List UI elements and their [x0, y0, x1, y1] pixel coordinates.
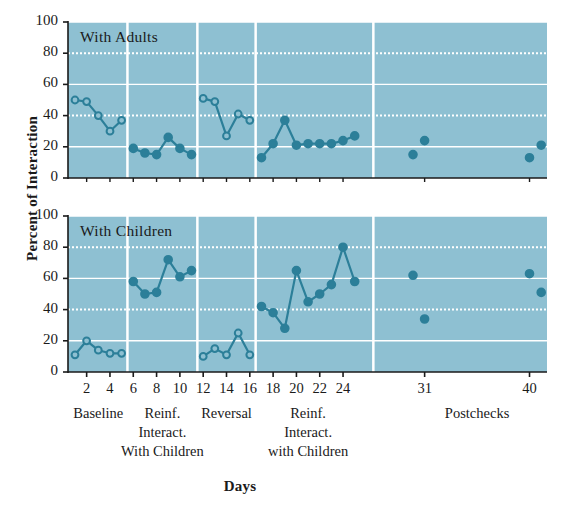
data-point-filled	[188, 151, 196, 159]
data-point-filled	[421, 315, 429, 323]
phase-label-3: Reinf.Interact.with Children	[233, 404, 383, 461]
data-point-filled	[328, 281, 336, 289]
y-tick-label: 40	[18, 300, 58, 317]
data-point-open	[95, 112, 102, 119]
data-point-filled	[188, 267, 196, 275]
data-point-filled	[409, 151, 417, 159]
data-point-filled	[339, 243, 347, 251]
x-axis-title: Days	[0, 478, 480, 495]
y-tick-label: 20	[18, 137, 58, 154]
phase-label-line: with Children	[233, 442, 383, 461]
data-point-filled	[258, 303, 266, 311]
data-point-filled	[316, 290, 324, 298]
data-point-open	[107, 350, 114, 357]
data-point-open	[83, 98, 90, 105]
data-point-filled	[141, 290, 149, 298]
data-point-filled	[269, 140, 277, 148]
data-point-filled	[281, 117, 289, 125]
data-point-filled	[537, 289, 545, 297]
y-tick-label: 100	[18, 206, 58, 223]
data-point-open	[246, 351, 253, 358]
data-point-filled	[269, 309, 277, 317]
data-point-filled	[164, 134, 172, 142]
data-point-open	[200, 353, 207, 360]
data-point-filled	[130, 145, 138, 153]
y-tick-label: 60	[18, 268, 58, 285]
data-point-filled	[537, 141, 545, 149]
phase-label-line: Reinf.	[233, 404, 383, 423]
phase-label-4: Postchecks	[402, 404, 552, 423]
x-tick-label: 24	[323, 380, 363, 397]
phase-label-line: Interact.	[87, 423, 237, 442]
panel-title-with-adults: With Adults	[80, 28, 158, 46]
y-tick-label: 80	[18, 237, 58, 254]
data-point-filled	[339, 137, 347, 145]
data-point-filled	[293, 267, 301, 275]
data-point-open	[223, 133, 230, 140]
data-point-open	[95, 347, 102, 354]
data-point-open	[235, 111, 242, 118]
data-point-open	[107, 128, 114, 135]
data-point-filled	[153, 289, 161, 297]
data-point-open	[118, 117, 125, 124]
data-point-open	[118, 350, 125, 357]
data-point-filled	[316, 140, 324, 148]
data-point-open	[200, 95, 207, 102]
data-point-filled	[409, 272, 417, 280]
data-point-filled	[176, 273, 184, 281]
y-tick-label: 20	[18, 331, 58, 348]
phase-label-line: Interact.	[233, 423, 383, 442]
data-point-filled	[421, 137, 429, 145]
data-point-filled	[304, 298, 312, 306]
data-point-filled	[328, 140, 336, 148]
data-point-filled	[351, 132, 359, 140]
data-point-filled	[351, 278, 359, 286]
x-tick-label: 40	[510, 380, 550, 397]
data-point-open	[211, 98, 218, 105]
data-point-filled	[141, 149, 149, 157]
data-point-filled	[526, 154, 534, 162]
data-point-filled	[153, 151, 161, 159]
phase-label-line: Postchecks	[402, 404, 552, 423]
x-tick-label: 31	[405, 380, 445, 397]
data-point-filled	[130, 278, 138, 286]
y-tick-label: 0	[18, 362, 58, 379]
data-point-open	[211, 345, 218, 352]
data-point-filled	[176, 145, 184, 153]
phase-label-line: With Children	[87, 442, 237, 461]
data-point-open	[72, 97, 79, 104]
data-point-open	[83, 337, 90, 344]
data-point-filled	[164, 256, 172, 264]
data-point-open	[72, 351, 79, 358]
data-point-filled	[258, 154, 266, 162]
y-tick-label: 40	[18, 106, 58, 123]
y-tick-label: 0	[18, 168, 58, 185]
data-point-filled	[304, 140, 312, 148]
data-point-filled	[281, 325, 289, 333]
data-point-filled	[526, 270, 534, 278]
y-tick-label: 100	[18, 12, 58, 29]
data-point-filled	[293, 141, 301, 149]
data-point-open	[246, 117, 253, 124]
panel-title-with-children: With Children	[80, 222, 172, 240]
figure-container: Percent of Interaction Days 020406080100…	[0, 0, 575, 506]
data-point-open	[235, 330, 242, 337]
data-point-open	[223, 351, 230, 358]
y-tick-label: 60	[18, 74, 58, 91]
y-tick-label: 80	[18, 43, 58, 60]
